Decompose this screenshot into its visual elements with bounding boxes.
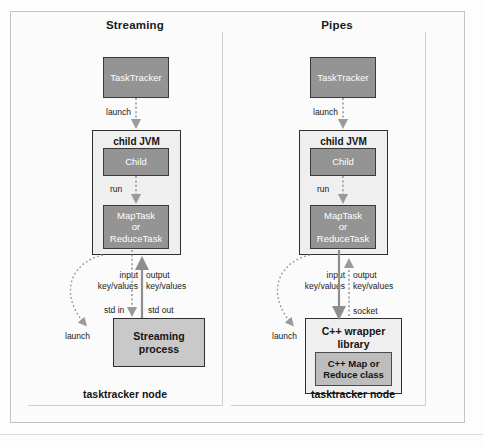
- streaming-task-line1: MapTask: [117, 210, 155, 221]
- streaming-process-line1: Streaming: [133, 330, 184, 343]
- panel-title-streaming: Streaming: [60, 19, 210, 31]
- streaming-output-line1: output: [146, 270, 170, 280]
- pipes-launch-curve-label: launch: [272, 331, 297, 342]
- streaming-output-label: output key/values: [146, 270, 198, 291]
- pipes-map-reduce-class-box[interactable]: C++ Map or Reduce class: [315, 352, 392, 386]
- pipes-input-label: input key/values: [301, 270, 345, 291]
- pipes-socket-label: socket: [353, 306, 378, 317]
- streaming-launch-top-label: launch: [106, 107, 131, 118]
- pipes-task-line1: MapTask: [324, 210, 362, 221]
- pipes-child-box[interactable]: Child: [310, 148, 376, 176]
- pipes-output-line2: key/values: [353, 281, 393, 291]
- streaming-stdin-label: std in: [104, 305, 124, 316]
- pipes-task-line3: ReduceTask: [317, 233, 369, 244]
- pipes-child-jvm-label: child JVM: [300, 136, 387, 148]
- pipes-footer-label: tasktracker node: [283, 388, 423, 400]
- streaming-output-line2: key/values: [146, 281, 186, 291]
- panel-title-pipes: Pipes: [262, 19, 412, 31]
- pipes-tasktracker-box[interactable]: TaskTracker: [310, 57, 376, 98]
- streaming-task-box[interactable]: MapTask or ReduceTask: [103, 205, 169, 249]
- streaming-launch-curve-label: launch: [65, 331, 90, 342]
- streaming-process-box[interactable]: Streaming process: [113, 318, 205, 367]
- streaming-input-line2: key/values: [98, 281, 138, 291]
- diagram-figure: Streaming TaskTracker launch child JVM C…: [0, 0, 483, 446]
- pipes-output-line1: output: [353, 270, 377, 280]
- streaming-tasktracker-box[interactable]: TaskTracker: [103, 57, 169, 98]
- streaming-run-label: run: [110, 184, 122, 195]
- pipes-wrapper-line2: library: [337, 338, 369, 350]
- pipes-output-label: output key/values: [353, 270, 405, 291]
- pipes-child-label: Child: [332, 156, 354, 167]
- pipes-launch-top-label: launch: [313, 107, 338, 118]
- streaming-task-line3: ReduceTask: [110, 233, 162, 244]
- streaming-panel-bottom-rule: [28, 405, 223, 406]
- pipes-panel-right-rule: [425, 32, 426, 405]
- streaming-child-jvm-label: child JVM: [93, 136, 180, 148]
- pipes-wrapper-line1: C++ wrapper: [322, 325, 386, 337]
- pipes-wrapper-title: C++ wrapper library: [306, 325, 401, 351]
- streaming-stdout-label: std out: [148, 305, 174, 316]
- streaming-task-line2: or: [132, 221, 140, 232]
- streaming-input-line1: input: [120, 270, 138, 280]
- pipes-task-box[interactable]: MapTask or ReduceTask: [310, 205, 376, 249]
- pipes-input-line1: input: [327, 270, 345, 280]
- streaming-input-label: input key/values: [94, 270, 138, 291]
- streaming-child-label: Child: [125, 156, 147, 167]
- pipes-input-line2: key/values: [305, 281, 345, 291]
- pipes-panel-bottom-rule: [231, 405, 426, 406]
- pipes-inner-line2: Reduce class: [323, 369, 384, 380]
- streaming-panel-right-rule: [222, 32, 223, 405]
- streaming-tasktracker-label: TaskTracker: [110, 72, 161, 83]
- streaming-process-line2: process: [139, 343, 179, 356]
- page-bottom-rule: [0, 434, 483, 435]
- streaming-footer-label: tasktracker node: [55, 388, 195, 400]
- pipes-inner-line1: C++ Map or: [328, 358, 380, 369]
- streaming-child-box[interactable]: Child: [103, 148, 169, 176]
- pipes-run-label: run: [317, 184, 329, 195]
- pipes-tasktracker-label: TaskTracker: [317, 72, 368, 83]
- pipes-task-line2: or: [339, 221, 347, 232]
